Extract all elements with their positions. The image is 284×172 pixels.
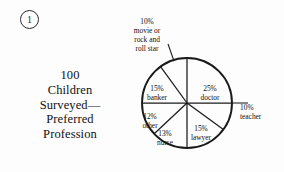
teacher-percent: 10% [240,103,284,112]
movie-star-slice-label: 10% movie or rock and roll star [116,17,178,53]
doctor-slice-label: 25% doctor [190,84,230,102]
nurse-name: nurse [148,138,182,147]
movie-star-name-line-1: movie or [116,26,178,35]
lawyer-percent: 15% [182,124,220,133]
nurse-slice-label: 13% nurse [148,129,182,147]
movie-star-name-line-3: roll star [116,44,178,53]
teacher-name: teacher [240,112,284,121]
banker-percent: 15% [138,84,176,93]
figure-container: 1 100 Children Surveyed— Preferred Profe… [0,0,284,172]
banker-name: banker [138,93,176,102]
movie-star-percent: 10% [116,17,178,26]
lawyer-slice-label: 15% lawyer [182,124,220,142]
other-percent: 12% [134,112,166,121]
doctor-percent: 25% [190,84,230,93]
nurse-percent: 13% [148,129,182,138]
other-name: other [134,121,166,130]
banker-slice-label: 15% banker [138,84,176,102]
lawyer-name: lawyer [182,133,220,142]
teacher-slice-label: 10% teacher [240,103,284,121]
other-slice-label: 12% other [134,112,166,130]
movie-star-name-line-2: rock and [116,35,178,44]
doctor-name: doctor [190,93,230,102]
